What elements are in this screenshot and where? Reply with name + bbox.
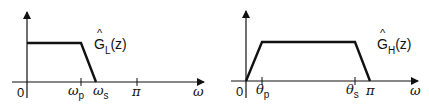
highpass-curve-label-text: GH(z) [377,37,411,51]
highpass-origin-label: 0 [236,85,243,98]
highpass-response-curve [246,42,370,81]
lowpass-tick-label-omega-p: ωp [68,84,84,97]
lowpass-tick-label-pi: π [132,85,141,98]
lowpass-curve-label: ^ GL(z) [94,28,134,58]
highpass-tick-label-theta-s: θs [346,83,359,96]
lowpass-curve-label-text: GL(z) [94,37,127,51]
lowpass-x-axis-label: ω [193,85,204,98]
lowpass-origin-label: 0 [17,86,24,99]
highpass-tick-label-pi: π [366,84,375,97]
highpass-x-axis-label: ω [410,84,421,97]
highpass-curve-label: ^ GH(z) [377,28,422,58]
diagram-canvas [0,0,429,105]
highpass-tick-label-theta-p: θp [256,83,269,96]
lowpass-response-curve [27,43,96,82]
lowpass-tick-label-omega-s: ωs [93,84,109,97]
